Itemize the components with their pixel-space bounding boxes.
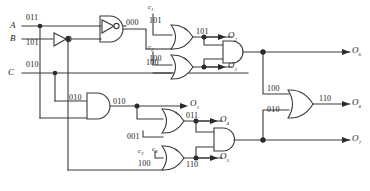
constant-label-c4: c4	[152, 146, 158, 154]
output-O8-index: 8	[359, 104, 362, 109]
input-label-A: A	[10, 21, 16, 30]
wire-value-or1-out: 101	[196, 28, 209, 36]
output-O5-index: 5	[227, 158, 230, 163]
circuit-wires	[0, 0, 370, 191]
constant-label-c2: c2	[148, 44, 154, 52]
constant-value-c1: 101	[149, 17, 162, 25]
input-value-B: 101	[26, 39, 39, 47]
wire-value-o6-branch: 100	[267, 85, 280, 93]
output-label-O1: O1	[190, 99, 199, 110]
wire-value-and2-out: 010	[113, 98, 126, 106]
wire-value-c3: 001	[127, 133, 140, 141]
output-O4-index: 4	[227, 121, 230, 126]
constant-c4-index: 4	[155, 149, 158, 154]
constant-c1-index: 1	[151, 7, 154, 12]
output-O1-index: 1	[197, 105, 200, 110]
output-label-O4: O4	[220, 115, 229, 126]
output-O2-index: 2	[235, 37, 238, 42]
wire-value-or4-out: 110	[186, 161, 198, 169]
input-label-C: C	[8, 68, 14, 77]
input-value-C: 010	[26, 61, 39, 69]
output-label-O3: O3	[228, 61, 237, 72]
wire-value-or3-out: 011	[186, 112, 198, 120]
input-value-A: 011	[26, 14, 38, 22]
constant-c2-index: 2	[151, 47, 154, 52]
wire-value-and1-out: 000	[126, 19, 139, 27]
output-label-O6: O6	[352, 46, 361, 57]
input-label-B: B	[10, 34, 16, 43]
output-O7-index: 7	[359, 140, 362, 145]
constant-label-c1: c1	[148, 4, 154, 12]
wire-value-c4: 100	[138, 160, 151, 168]
wire-value-or5-out: 110	[319, 95, 331, 103]
wire-value-or2-out: 100	[146, 59, 159, 67]
wire-value-and2-in-top: 010	[69, 94, 82, 102]
output-label-O8: O8	[352, 98, 361, 109]
output-label-O5: O5	[220, 152, 229, 163]
output-label-O2: O2	[228, 31, 237, 42]
wire-value-o7-branch: 010	[267, 106, 280, 114]
constant-label-c3: c3	[138, 148, 144, 156]
output-O3-index: 3	[235, 67, 238, 72]
output-label-O7: O7	[352, 134, 361, 145]
circuit-diagram: A 011 B 101 C 010 c1 101 c2 100 c3 c4 00…	[0, 0, 370, 191]
constant-c3-index: 3	[141, 151, 144, 156]
output-O6-index: 6	[359, 52, 362, 57]
